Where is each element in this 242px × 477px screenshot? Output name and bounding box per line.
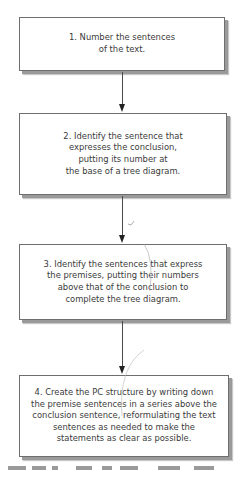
step-3-box: 3. Identify the sentences that express t… bbox=[19, 244, 227, 320]
connector-line-2 bbox=[122, 196, 123, 236]
arrowhead-icon bbox=[119, 104, 125, 112]
step-1-text: 1. Number the sentences of the text. bbox=[69, 32, 175, 55]
step-2-text: 2. Identify the sentence that expresses … bbox=[63, 131, 182, 177]
pen-mark-icon bbox=[127, 220, 135, 226]
arrowhead-icon bbox=[119, 235, 125, 243]
step-1-box: 1. Number the sentences of the text. bbox=[19, 17, 225, 71]
step-3-text: 3. Identify the sentences that express t… bbox=[44, 259, 203, 305]
figure-caption-cropped bbox=[8, 464, 240, 472]
pen-stroke-icon bbox=[142, 243, 162, 293]
cropped-caption-glyphs bbox=[8, 464, 240, 472]
pen-stroke-icon bbox=[116, 348, 146, 418]
connector-line-1 bbox=[122, 72, 123, 105]
step-2-box: 2. Identify the sentence that expresses … bbox=[19, 113, 227, 195]
